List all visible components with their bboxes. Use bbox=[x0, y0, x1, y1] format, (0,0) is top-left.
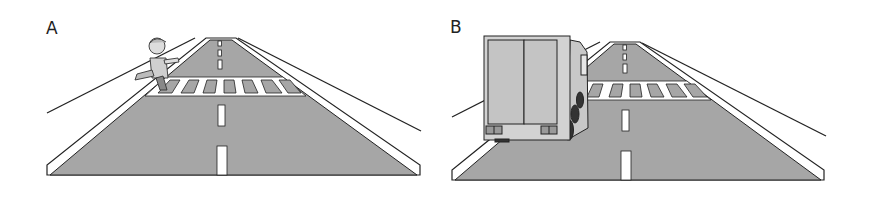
road-surface bbox=[50, 40, 417, 175]
panel-a: A bbox=[0, 0, 435, 199]
truck-icon bbox=[484, 36, 588, 142]
road-scene-b bbox=[435, 0, 871, 199]
road-scene-a bbox=[0, 0, 435, 199]
panel-b: B bbox=[435, 0, 871, 199]
